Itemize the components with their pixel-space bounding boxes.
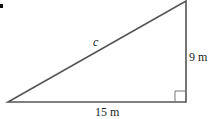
triangle-outline [8, 1, 186, 102]
horizontal-side-label: 15 m [95, 106, 119, 118]
right-angle-marker [175, 91, 186, 102]
vertical-side-label: 9 m [189, 51, 207, 63]
right-triangle-figure [0, 0, 208, 119]
hypotenuse-label: c [93, 36, 98, 48]
